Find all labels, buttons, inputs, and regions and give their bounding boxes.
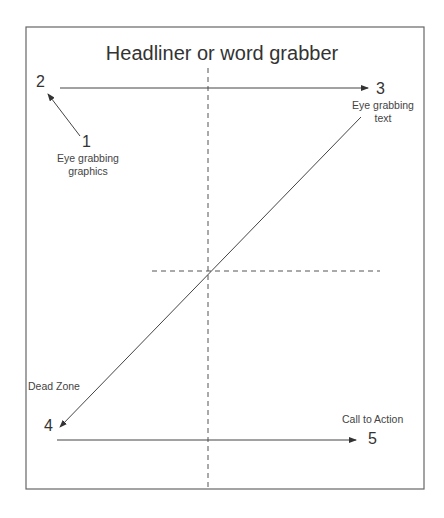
point-1-label: Eye grabbing graphics (55, 152, 121, 178)
point-1-number: 1 (82, 133, 91, 151)
point-1-label-line1: Eye grabbing (55, 152, 121, 165)
point-4-number: 4 (44, 417, 53, 435)
arrow-1-to-2 (48, 94, 80, 136)
point-5-number: 5 (368, 430, 377, 448)
point-2-number: 2 (36, 73, 45, 91)
point-3-label-line1: Eye grabbing (350, 99, 416, 112)
point-3-number: 3 (376, 80, 385, 98)
dead-zone-label: Dead Zone (28, 380, 80, 393)
call-to-action-label: Call to Action (342, 413, 403, 426)
point-1-label-line2: graphics (55, 165, 121, 178)
diagram-title: Headliner or word grabber (0, 42, 444, 65)
point-3-label: Eye grabbing text (350, 99, 416, 125)
diagram-canvas (0, 0, 444, 518)
point-3-label-line2: text (350, 112, 416, 125)
